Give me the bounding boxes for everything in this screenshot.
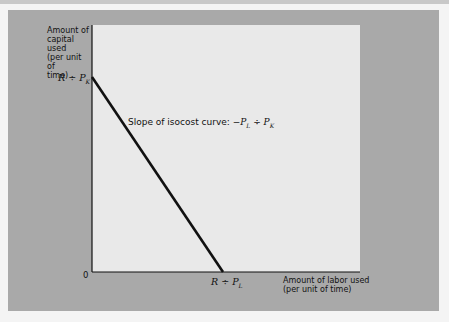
- slope-op: ÷: [250, 117, 263, 127]
- x-axis-label: Amount of labor used (per unit of time): [283, 276, 383, 294]
- x-tick-sub: L: [239, 282, 243, 289]
- slope-text: Slope of isocost curve:: [128, 117, 233, 127]
- y-tick-sub: K: [86, 78, 90, 85]
- y-tick-base: R ÷ P: [58, 72, 86, 83]
- slope-annotation: Slope of isocost curve: −PL ÷ PK: [128, 117, 274, 129]
- x-label-line: Amount of labor used: [283, 276, 383, 285]
- y-intercept-label: R ÷ PK: [58, 72, 90, 85]
- slope-den-sub: K: [270, 122, 274, 129]
- x-label-line: (per unit of time): [283, 285, 383, 294]
- slope-num: −P: [233, 117, 247, 127]
- y-label-line: (per unit of: [47, 53, 91, 71]
- y-label-line: Amount of: [47, 26, 91, 35]
- y-label-line: capital used: [47, 35, 91, 53]
- origin-label: 0: [83, 270, 88, 280]
- x-intercept-label: R ÷ PL: [211, 276, 243, 289]
- isocost-line: [92, 77, 223, 272]
- x-tick-base: R ÷ P: [211, 276, 239, 287]
